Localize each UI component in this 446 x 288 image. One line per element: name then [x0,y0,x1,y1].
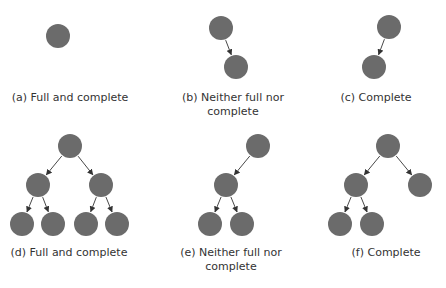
edge-arrow [27,197,33,212]
edge-arrow [91,197,97,212]
tree-node [377,15,401,39]
tree-node [376,134,400,158]
caption-d: (d) Full and complete [0,246,139,260]
tree-node [230,212,254,236]
tree-node [41,212,65,236]
tree-node [10,212,34,236]
edge-arrow [234,156,250,175]
tree-node [198,212,222,236]
binary-tree-diagram [0,0,446,288]
caption-a: (a) Full and complete [0,91,140,105]
tree-node [89,173,113,197]
tree-node [214,173,238,197]
edge-arrow [379,39,385,55]
edge-arrow [231,197,237,212]
tree-node [105,212,129,236]
edge-arrow [78,156,93,175]
tree-node [26,173,50,197]
tree-node [246,134,270,158]
panel-c-tree [362,15,401,79]
tree-node [408,173,432,197]
edge-arrow [226,40,232,55]
edge-arrow [364,156,380,175]
tree-node [360,212,384,236]
caption-e: (e) Neither full nor complete [161,246,301,274]
panel-d-tree [10,134,129,236]
tree-node [328,212,352,236]
edge-arrow [361,197,367,212]
tree-node [209,16,233,40]
edge-arrow [46,156,62,175]
tree-node [344,173,368,197]
edge-arrow [106,197,112,212]
tree-node [362,55,386,79]
panel-a-tree [46,24,70,48]
caption-c: (c) Complete [306,91,446,105]
caption-b: (b) Neither full nor complete [163,91,303,119]
caption-f: (f) Complete [316,246,446,260]
tree-node [46,24,70,48]
tree-node [58,134,82,158]
edge-arrow [215,197,221,212]
panel-e-tree [198,134,270,236]
tree-node [224,55,248,79]
panel-f-tree [328,134,432,236]
tree-node [74,212,98,236]
edge-arrow [396,156,412,175]
edge-arrow [345,197,351,212]
panel-b-tree [209,16,248,79]
edge-arrow [43,197,49,212]
